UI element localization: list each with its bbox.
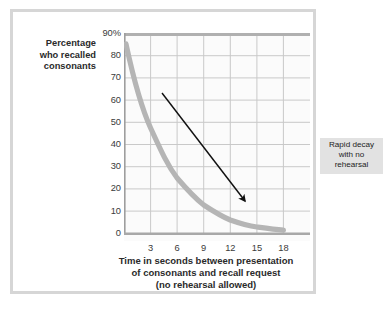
- x-tick-18: 18: [272, 243, 294, 254]
- annotation-line-2: with no: [323, 150, 380, 160]
- x-tick-15: 15: [246, 243, 268, 254]
- y-tick-20: 20: [88, 184, 121, 193]
- chart-svg: [124, 33, 310, 241]
- y-tick-30: 30: [88, 162, 121, 171]
- y-tick-0: 0: [88, 229, 121, 238]
- y-axis-label-line-2: who recalled: [14, 50, 96, 62]
- x-tick-6: 6: [166, 243, 188, 254]
- y-tick-80: 80: [88, 51, 121, 60]
- annotation-line-3: rehearsal: [323, 160, 380, 170]
- annotation-line-1: Rapid decay: [323, 140, 380, 150]
- y-axis-label-line-1: Percentage: [14, 38, 96, 50]
- x-axis-label: Time in seconds between presentation of …: [96, 255, 316, 292]
- y-axis-label-line-3: consonants: [14, 61, 96, 73]
- x-tick-3: 3: [140, 243, 162, 254]
- x-axis-label-line-3: (no rehearsal allowed): [96, 279, 316, 291]
- y-tick-70: 70: [88, 73, 121, 82]
- x-tick-12: 12: [219, 243, 241, 254]
- plot-area: Rapid decay with no rehearsal: [124, 33, 310, 241]
- x-axis-label-line-1: Time in seconds between presentation: [96, 255, 316, 267]
- y-tick-50: 50: [88, 118, 121, 127]
- y-axis-tick-labels: 90% 80 70 60 50 40 30 20 10 0: [88, 33, 121, 241]
- y-tick-10: 10: [88, 207, 121, 216]
- y-axis-label: Percentage who recalled consonants: [14, 38, 96, 73]
- x-tick-9: 9: [193, 243, 215, 254]
- y-tick-90: 90%: [88, 29, 121, 38]
- x-axis-label-line-2: of consonants and recall request: [96, 267, 316, 279]
- annotation-callout: Rapid decay with no rehearsal: [320, 138, 383, 174]
- y-tick-40: 40: [88, 140, 121, 149]
- y-tick-60: 60: [88, 96, 121, 105]
